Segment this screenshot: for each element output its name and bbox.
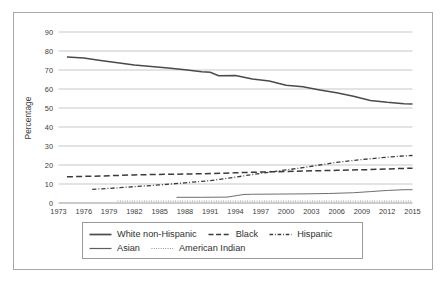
x-tick-label: 2006: [328, 207, 344, 216]
legend-line-swatch-icon: [269, 231, 292, 238]
y-tick-label: 50: [45, 104, 53, 113]
legend-item-hispanic[interactable]: Hispanic: [269, 229, 332, 239]
chart-legend: White non-HispanicBlackHispanicAsianAmer…: [82, 222, 363, 259]
legend-line-swatch-icon: [89, 245, 112, 252]
y-tick-label: 60: [45, 85, 53, 94]
x-tick-label: 2012: [379, 207, 395, 216]
series-line-asian: [177, 190, 413, 198]
legend-label: American Indian: [179, 243, 245, 253]
legend-label: White non-Hispanic: [117, 229, 197, 239]
legend-row: AsianAmerican Indian: [89, 241, 362, 255]
chart-figure: 0102030405060708090 19731976197919821985…: [0, 0, 446, 281]
x-tick-label: 1994: [227, 207, 243, 216]
x-tick-label: 1979: [101, 207, 117, 216]
x-tick-label: 1976: [76, 207, 92, 216]
y-tick-label: 40: [45, 123, 53, 132]
y-tick-label: 10: [45, 180, 53, 189]
y-tick-label: 80: [45, 47, 53, 56]
legend-item-american-indian[interactable]: American Indian: [151, 243, 245, 253]
gridlines: [59, 32, 413, 203]
y-tick-label: 30: [45, 142, 53, 151]
x-tick-label: 1988: [177, 207, 193, 216]
x-axis-tick-labels: 1973197619791982198519881991199419972000…: [50, 207, 420, 216]
x-tick-label: 2003: [303, 207, 319, 216]
x-tick-label: 1997: [253, 207, 269, 216]
data-series-group: [67, 57, 413, 201]
legend-item-white-non-hispanic[interactable]: White non-Hispanic: [89, 229, 197, 239]
y-axis-tick-labels: 0102030405060708090: [45, 28, 53, 208]
y-tick-label: 20: [45, 161, 53, 170]
x-tick-label: 1991: [202, 207, 218, 216]
x-tick-label: 2000: [278, 207, 294, 216]
legend-line-swatch-icon: [89, 231, 112, 238]
series-line-white-non-hispanic: [67, 57, 413, 104]
x-tick-label: 1973: [50, 207, 66, 216]
legend-line-swatch-icon: [208, 231, 231, 238]
legend-label: Black: [236, 229, 258, 239]
x-tick-label: 1985: [151, 207, 167, 216]
y-tick-label: 70: [45, 66, 53, 75]
legend-line-swatch-icon: [151, 245, 174, 252]
y-tick-label: 90: [45, 28, 53, 37]
x-tick-label: 2015: [404, 207, 420, 216]
x-tick-label: 1982: [126, 207, 142, 216]
legend-item-asian[interactable]: Asian: [89, 243, 140, 253]
legend-item-black[interactable]: Black: [208, 229, 258, 239]
legend-row: White non-HispanicBlackHispanic: [89, 227, 362, 241]
series-line-black: [67, 168, 413, 177]
legend-label: Asian: [117, 243, 140, 253]
legend-label: Hispanic: [297, 229, 332, 239]
x-tick-label: 2009: [354, 207, 370, 216]
y-axis-title: Percentage: [23, 96, 33, 139]
